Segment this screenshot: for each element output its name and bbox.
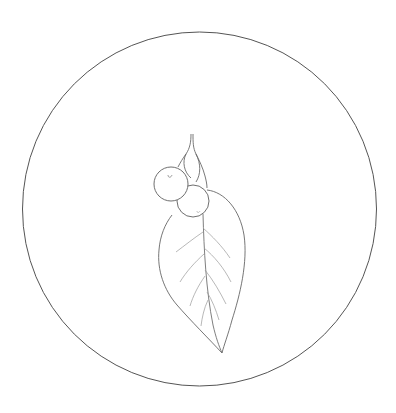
leaf-veins bbox=[176, 228, 231, 326]
illustration-canvas bbox=[0, 0, 396, 413]
leaf-berries-illustration bbox=[0, 0, 396, 413]
berries bbox=[154, 167, 209, 217]
leaf-midrib bbox=[203, 214, 222, 353]
berry-upper bbox=[154, 167, 188, 201]
